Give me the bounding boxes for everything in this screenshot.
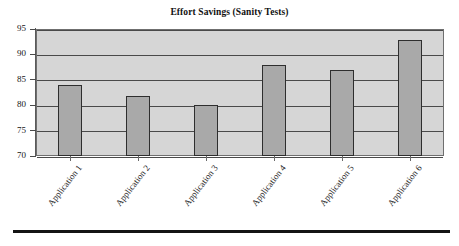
bar-3 <box>194 105 218 156</box>
x-tick-mark-6 <box>410 156 411 161</box>
chart-figure: Effort Savings (Sanity Tests) 7075808590… <box>0 0 459 246</box>
y-tick-mark-90 <box>30 54 36 55</box>
y-tick-label-75: 75 <box>0 126 26 135</box>
plot-area <box>36 29 444 156</box>
bar-4 <box>262 65 286 156</box>
gridline-y-70 <box>37 157 443 158</box>
x-tick-mark-2 <box>138 156 139 161</box>
bar-6 <box>398 40 422 156</box>
y-tick-mark-70 <box>30 156 36 157</box>
x-tick-mark-5 <box>342 156 343 161</box>
y-axis-line <box>35 28 36 157</box>
gridline-y-95 <box>37 30 443 31</box>
y-tick-mark-85 <box>30 79 36 80</box>
x-axis-label-2: Application 2 <box>112 163 152 210</box>
x-axis-label-3: Application 3 <box>180 163 220 210</box>
x-axis-label-1: Application 1 <box>44 163 84 210</box>
y-tick-label-80: 80 <box>0 100 26 109</box>
x-tick-mark-1 <box>70 156 71 161</box>
chart-title: Effort Savings (Sanity Tests) <box>0 7 459 17</box>
y-tick-label-70: 70 <box>0 151 26 160</box>
gridline-y-75 <box>37 131 443 132</box>
y-tick-label-90: 90 <box>0 49 26 58</box>
gridline-y-80 <box>37 106 443 107</box>
y-tick-label-95: 95 <box>0 24 26 33</box>
x-axis-label-4: Application 4 <box>248 163 288 210</box>
x-axis-label-6: Application 6 <box>384 163 424 210</box>
bar-5 <box>330 70 354 156</box>
x-axis-label-5: Application 5 <box>316 163 356 210</box>
y-tick-mark-80 <box>30 105 36 106</box>
x-tick-mark-3 <box>206 156 207 161</box>
bar-2 <box>126 96 150 156</box>
gridline-y-85 <box>37 80 443 81</box>
y-tick-mark-95 <box>30 29 36 30</box>
y-tick-mark-75 <box>30 130 36 131</box>
bottom-horizontal-rule <box>13 230 450 233</box>
y-tick-label-85: 85 <box>0 75 26 84</box>
x-tick-mark-4 <box>274 156 275 161</box>
gridline-y-90 <box>37 55 443 56</box>
bar-1 <box>58 85 82 156</box>
